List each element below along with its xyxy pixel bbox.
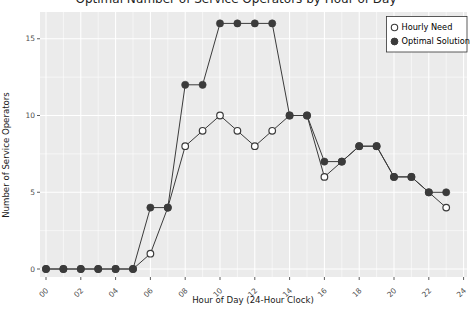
data-point-optimal-solution [425, 189, 432, 196]
data-point-optimal-solution [303, 112, 310, 119]
x-tick-label: 02 [72, 286, 85, 299]
data-point-optimal-solution [373, 143, 380, 150]
data-point-optimal-solution [234, 20, 241, 27]
x-tick-label: 08 [176, 286, 189, 299]
x-tick-label: 22 [420, 286, 433, 299]
data-point-optimal-solution [390, 173, 397, 180]
legend-item-optimal-solution: Optimal Solution [391, 36, 470, 46]
data-point-optimal-solution [199, 81, 206, 88]
x-tick-label: 06 [142, 286, 155, 299]
data-point-optimal-solution [42, 265, 49, 272]
data-point-optimal-solution [147, 204, 154, 211]
data-point-optimal-solution [321, 158, 328, 165]
data-point-hourly-need [234, 128, 241, 135]
x-tick-label: 16 [316, 286, 329, 299]
x-tick-label: 00 [37, 286, 50, 299]
data-point-hourly-need [217, 112, 224, 119]
data-point-hourly-need [269, 128, 276, 135]
y-tick-label: 10 [25, 111, 35, 120]
data-point-optimal-solution [129, 265, 136, 272]
y-tick-label: 0 [30, 265, 35, 274]
filled-circle-icon [391, 38, 398, 45]
data-point-optimal-solution [112, 265, 119, 272]
data-point-hourly-need [443, 204, 450, 211]
data-point-optimal-solution [95, 265, 102, 272]
x-axis-title: Hour of Day (24-Hour Clock) [192, 295, 314, 305]
figure: Optimal Number of Service Operators by H… [0, 0, 472, 315]
x-tick-label: 04 [107, 286, 120, 299]
data-point-optimal-solution [269, 20, 276, 27]
data-point-hourly-need [182, 143, 189, 150]
data-point-optimal-solution [356, 143, 363, 150]
open-circle-icon [391, 24, 397, 30]
y-tick-label: 5 [30, 188, 35, 197]
data-point-hourly-need [321, 174, 328, 181]
y-tick-label: 15 [25, 34, 35, 43]
data-point-optimal-solution [60, 265, 67, 272]
legend-label-hourly-need: Hourly Need [402, 22, 453, 32]
data-point-optimal-solution [164, 204, 171, 211]
data-point-optimal-solution [408, 173, 415, 180]
x-tick-label: 20 [385, 286, 398, 299]
data-point-optimal-solution [77, 265, 84, 272]
data-point-optimal-solution [251, 20, 258, 27]
y-axis-title: Number of Service Operators [1, 92, 11, 218]
data-point-optimal-solution [286, 112, 293, 119]
data-point-hourly-need [199, 128, 206, 135]
data-point-optimal-solution [216, 20, 223, 27]
x-tick-label: 24 [455, 286, 468, 299]
legend-label-optimal-solution: Optimal Solution [402, 36, 470, 46]
data-point-optimal-solution [443, 189, 450, 196]
data-point-optimal-solution [182, 81, 189, 88]
data-point-optimal-solution [338, 158, 345, 165]
line-chart: 00020406081012141618202224051015 Hour of… [0, 0, 472, 315]
data-point-hourly-need [147, 250, 154, 257]
x-tick-label: 18 [350, 286, 363, 299]
legend: Hourly Need Optimal Solution [387, 17, 470, 53]
data-point-hourly-need [252, 143, 259, 150]
